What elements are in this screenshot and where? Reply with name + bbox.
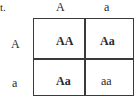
cell-genotype-2-1: Aa [56, 75, 71, 87]
column-header-allele-2: a [104, 1, 109, 13]
vertical-divider [84, 19, 86, 95]
horizontal-divider [34, 58, 133, 60]
column-header-allele-1: A [56, 1, 65, 13]
cell-genotype-2-2: aa [101, 75, 112, 87]
row-header-allele-1: A [11, 38, 20, 50]
question-label: t. [0, 1, 6, 13]
punnett-square: AA Aa Aa aa [33, 18, 134, 96]
row-header-allele-2: a [12, 77, 17, 89]
cell-genotype-1-2: Aa [100, 35, 115, 47]
cell-genotype-1-1: AA [56, 35, 73, 47]
